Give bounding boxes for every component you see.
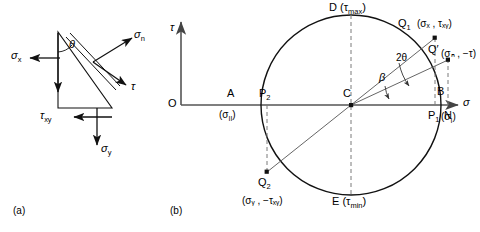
point-label-qprime: Q′ xyxy=(428,44,439,55)
sigma-x-label: σx xyxy=(11,50,21,64)
point-label-d-letter: D xyxy=(329,1,337,13)
point-coords-q1: (σₓ , τₓᵧ) xyxy=(417,19,452,29)
point-value-a: (σII) xyxy=(219,110,236,123)
point-label-p1: P1 xyxy=(428,110,440,124)
point-value-d-close: ) xyxy=(362,1,366,13)
point-value-a-close: ) xyxy=(232,109,235,120)
angle-label-two-theta: 2θ xyxy=(396,53,407,63)
sigma-y-subscript: y xyxy=(108,148,112,157)
point-label-q2: Q2 xyxy=(258,177,271,191)
theta-label: θ xyxy=(69,39,75,50)
point-label-p2: P2 xyxy=(259,88,271,102)
point-label-q2-letter: Q xyxy=(258,176,267,188)
point-label-p1-sub: 1 xyxy=(435,115,439,124)
point-label-p2-sub: 2 xyxy=(266,93,270,102)
point-marker-q1 xyxy=(433,36,437,40)
point-label-q1: Q1 xyxy=(398,18,411,32)
point-label-c: C xyxy=(343,88,351,99)
origin-label: O xyxy=(168,98,177,109)
point-value-d-sub: max xyxy=(348,7,362,16)
point-label-b: B xyxy=(437,86,444,97)
angle-label-beta: β xyxy=(379,72,385,83)
point-label-a: A xyxy=(227,88,234,99)
tau-arrow xyxy=(93,62,126,85)
point-value-b: (σI) xyxy=(441,112,456,125)
point-label-d: D (τmax) xyxy=(329,2,366,16)
sigma-axis-label: σ xyxy=(463,97,470,108)
point-marker-q2 xyxy=(265,170,269,174)
figure-canvas xyxy=(0,0,480,232)
point-value-e-close: ) xyxy=(362,195,366,207)
sigma-y-label: σy xyxy=(101,143,111,157)
panel-a-tag: (a) xyxy=(13,206,25,216)
point-coords-q2: (σᵧ , −τₓᵧ) xyxy=(242,196,283,206)
point-coords-qprime: (σₙ , −τ) xyxy=(441,49,476,59)
sigma-x-subscript: x xyxy=(18,55,22,64)
panel-b-tag: (b) xyxy=(170,206,182,216)
sigma-y-symbol: σ xyxy=(101,142,108,154)
sigma-n-subscript: n xyxy=(141,34,145,43)
point-label-q2-sub: 2 xyxy=(267,182,271,191)
point-marker-c xyxy=(349,103,353,107)
tau-label: τ xyxy=(131,81,135,92)
tau-axis-label: τ xyxy=(170,22,174,33)
point-value-e-sub: min xyxy=(350,201,362,210)
point-value-d-open: (τ xyxy=(340,1,348,13)
point-value-a-open: (σ xyxy=(219,109,229,120)
point-value-b-close: ) xyxy=(452,111,455,122)
point-label-e: E (τmin) xyxy=(332,196,366,210)
sigma-n-arrow xyxy=(93,38,132,62)
sigma-n-label: σn xyxy=(134,29,145,43)
point-label-e-letter: E xyxy=(332,195,339,207)
panel-b-group xyxy=(181,15,458,195)
sigma-x-symbol: σ xyxy=(11,49,18,61)
tau-xy-label: τxy xyxy=(40,110,52,124)
sigma-n-symbol: σ xyxy=(134,28,141,40)
tau-xy-subscript: xy xyxy=(44,115,51,124)
panel-a-group xyxy=(30,32,132,145)
point-label-q1-letter: Q xyxy=(398,17,407,29)
point-label-q1-sub: 1 xyxy=(407,23,411,32)
point-value-b-open: (σ xyxy=(441,111,451,122)
